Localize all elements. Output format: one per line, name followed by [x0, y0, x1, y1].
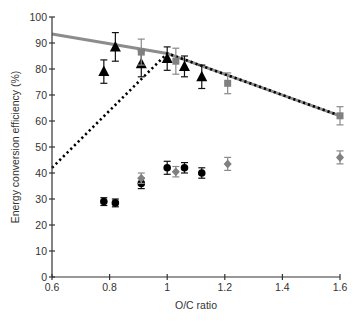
circle-point	[100, 198, 108, 206]
y-tick-label: 80	[35, 63, 47, 75]
square-point	[172, 48, 179, 74]
triangle-point	[98, 60, 109, 83]
square-point	[138, 39, 145, 65]
chart: 0102030405060708090100 0.60.811.21.41.6 …	[0, 0, 361, 323]
y-tick-label: 30	[35, 193, 47, 205]
square-marker-icon	[337, 112, 344, 119]
axes	[52, 17, 340, 277]
circle-marker-icon	[163, 164, 171, 172]
circle-marker-icon	[100, 198, 108, 206]
y-tick-label: 60	[35, 115, 47, 127]
y-tick-label: 70	[35, 89, 47, 101]
x-tick-label: 0.6	[45, 281, 60, 293]
square-marker-icon	[172, 58, 179, 65]
x-tick-label: 1.2	[217, 281, 232, 293]
y-tick-label: 10	[35, 245, 47, 257]
circle-point	[112, 199, 120, 207]
y-tick-label: 20	[35, 219, 47, 231]
circle-marker-icon	[181, 164, 189, 172]
square-marker-icon	[138, 49, 145, 56]
data-points	[98, 33, 344, 207]
y-tick-label: 90	[35, 37, 47, 49]
diamond-point	[172, 167, 180, 177]
diamond-marker-icon	[172, 167, 180, 176]
x-tick-label: 1.4	[275, 281, 290, 293]
triangle-marker-icon	[98, 66, 109, 77]
circle-point	[181, 163, 189, 173]
x-axis-title: O/C ratio	[175, 299, 217, 311]
square-marker-icon	[224, 80, 231, 87]
diamond-point	[224, 157, 232, 170]
circle-marker-icon	[198, 169, 206, 177]
black-dotted-line	[52, 53, 340, 167]
diamond-marker-icon	[224, 159, 232, 168]
y-tick-label: 40	[35, 167, 47, 179]
gray-solid-line	[52, 34, 340, 116]
triangle-marker-icon	[196, 71, 207, 82]
x-tick-label: 1	[164, 281, 170, 293]
trend-lines	[52, 34, 340, 168]
diamond-point	[336, 151, 344, 164]
y-tick-label: 50	[35, 141, 47, 153]
y-tick-label: 100	[29, 11, 47, 23]
diamond-marker-icon	[336, 153, 344, 162]
triangle-point	[110, 33, 121, 62]
square-point	[337, 107, 344, 125]
y-axis-title: Energy conversion efficiency (%)	[9, 71, 21, 224]
triangle-point	[162, 47, 173, 70]
x-tick-label: 0.8	[102, 281, 117, 293]
circle-marker-icon	[112, 199, 120, 207]
circle-point	[163, 161, 171, 174]
x-tick-label: 1.6	[333, 281, 348, 293]
circle-point	[198, 168, 206, 178]
y-ticks: 0102030405060708090100	[29, 11, 55, 283]
